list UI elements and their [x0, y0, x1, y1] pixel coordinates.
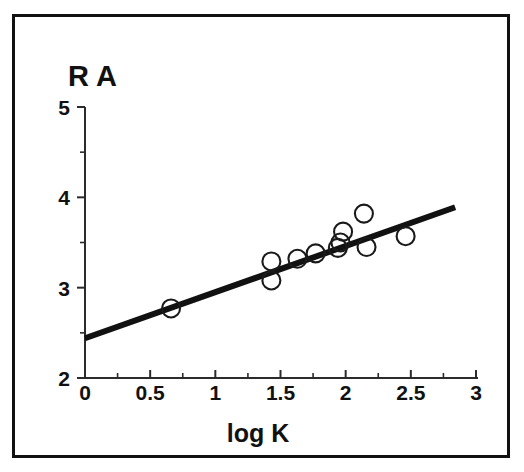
y-axis-tick-labels: 2345 — [58, 96, 70, 390]
y-tick-label-3: 3 — [58, 277, 70, 300]
x-tick-label-1.5: 1.5 — [266, 381, 296, 404]
figure-root: R A log K 2345 00.511.522.53 — [0, 0, 524, 472]
data-point-1 — [262, 252, 280, 270]
data-point-10 — [397, 227, 415, 245]
y-axis-ticks — [77, 107, 85, 378]
y-axis-title: R A — [68, 60, 117, 92]
x-tick-label-0: 0 — [79, 381, 91, 404]
x-tick-label-2: 2 — [340, 381, 352, 404]
data-point-7 — [334, 223, 352, 241]
x-tick-label-0.5: 0.5 — [136, 381, 166, 404]
regression-line — [85, 207, 455, 338]
x-tick-label-1: 1 — [209, 381, 221, 404]
x-tick-label-3: 3 — [470, 381, 482, 404]
x-axis-tick-labels: 00.511.522.53 — [79, 381, 482, 404]
data-point-8 — [355, 205, 373, 223]
scatter-plot-canvas: R A log K 2345 00.511.522.53 — [0, 0, 524, 472]
y-tick-label-2: 2 — [58, 367, 70, 390]
x-tick-label-2.5: 2.5 — [396, 381, 426, 404]
x-axis-ticks — [85, 370, 476, 378]
y-tick-label-5: 5 — [58, 96, 70, 119]
y-tick-label-4: 4 — [58, 186, 70, 209]
regression-line-path — [85, 207, 455, 338]
x-axis-title: log K — [227, 419, 290, 447]
